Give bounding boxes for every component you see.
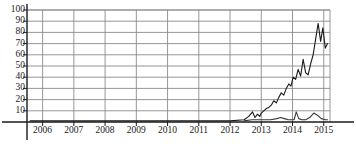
x-axis-tick-labels: 2006200720082009201020112012201320142015 [0, 126, 356, 142]
x-axis-tick-label: 2007 [64, 126, 83, 136]
x-axis-tick-label: 2013 [252, 126, 271, 136]
x-axis-tick-label: 2008 [96, 126, 115, 136]
x-axis-tick-label: 2006 [33, 126, 52, 136]
gridlines [27, 10, 330, 122]
x-axis-tick-label: 2014 [283, 126, 302, 136]
axis-ticks [23, 10, 324, 126]
x-axis-tick-label: 2015 [314, 126, 333, 136]
data-series [30, 23, 327, 120]
x-axis-tick-label: 2009 [127, 126, 146, 136]
x-axis-tick-label: 2011 [189, 126, 208, 136]
x-axis-tick-label: 2012 [221, 126, 240, 136]
x-axis-tick-label: 2010 [158, 126, 177, 136]
line-chart: 100908070605040302010 200620072008200920… [0, 0, 356, 155]
